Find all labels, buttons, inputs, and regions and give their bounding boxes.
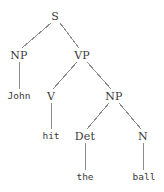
tree-edge-VP-NP2 [87,62,111,89]
tree-edge-S-VP [60,23,79,48]
tree-node-v: V [47,91,55,102]
tree-node-det: Det [75,131,95,142]
tree-edge-S-NP1 [22,23,51,48]
tree-edge-VP-V [53,62,77,89]
tree-edge-NP2-Det [87,103,109,129]
tree-node-vp: VP [74,50,90,61]
parse-tree-figure: SNPVPJohnVNPhitDetNtheball [0,0,164,192]
tree-node-ball: ball [133,172,156,182]
tree-node-np2: NP [105,91,122,102]
tree-edge-NP2-N [119,103,141,129]
tree-node-np1: NP [10,50,27,61]
tree-node-n: N [138,131,148,142]
tree-node-john: John [8,91,31,101]
tree-node-the: the [76,172,93,182]
tree-node-s: S [51,11,59,22]
tree-node-hit: hit [42,131,59,141]
